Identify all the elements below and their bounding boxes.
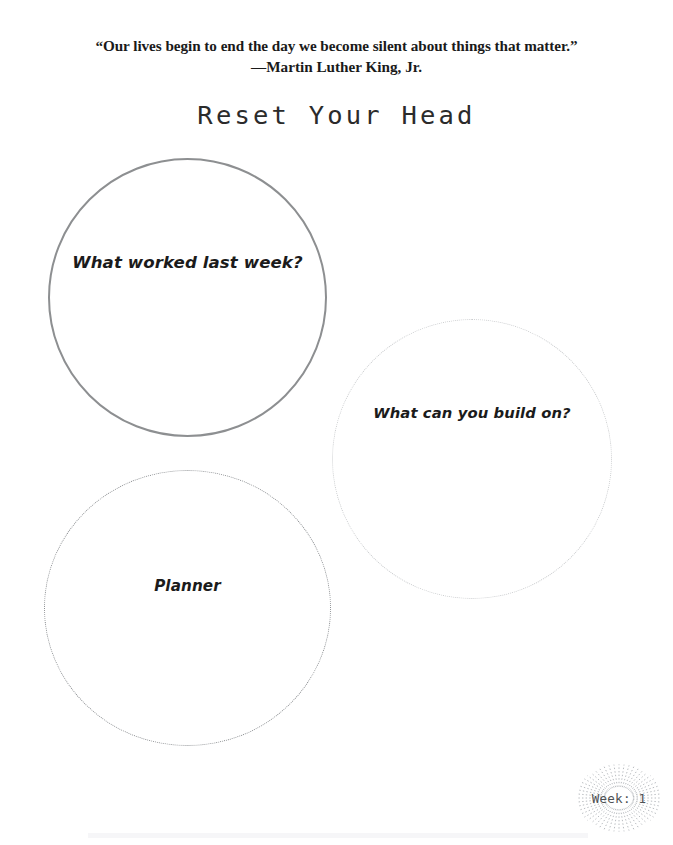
quote-block: “Our lives begin to end the day we becom… (0, 36, 673, 77)
week-badge-label: Week: 1 (565, 791, 673, 806)
bubble-label: What can you build on? (333, 404, 611, 421)
bottom-edge-band (88, 833, 588, 838)
page-title: Reset Your Head (0, 100, 673, 130)
quote-attribution: —Martin Luther King, Jr. (0, 57, 673, 77)
week-badge[interactable]: Week: 1 (565, 757, 673, 843)
bubble-label: What worked last week? (50, 253, 325, 272)
bubble-what-can-you-build-on[interactable]: What can you build on? (332, 319, 612, 599)
bubble-what-worked-last-week[interactable]: What worked last week? (48, 158, 327, 437)
worksheet-page: “Our lives begin to end the day we becom… (0, 0, 673, 845)
bubble-label: Planner (45, 577, 330, 595)
bubble-planner[interactable]: Planner (44, 470, 331, 746)
quote-text: “Our lives begin to end the day we becom… (0, 36, 673, 56)
